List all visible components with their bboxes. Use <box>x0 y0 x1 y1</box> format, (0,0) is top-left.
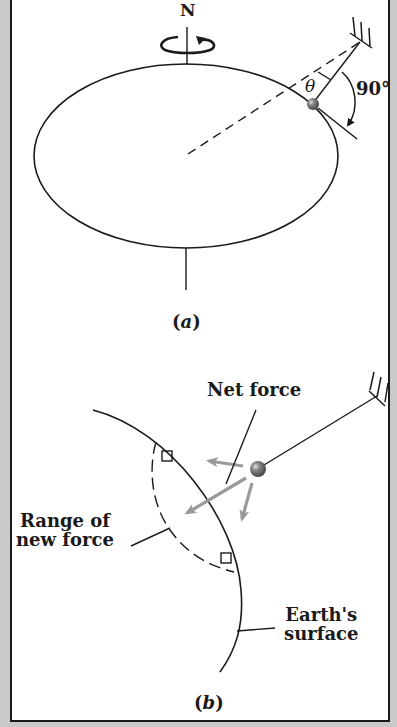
caption-close: ) <box>215 692 224 713</box>
earth-surface-arc <box>93 410 242 672</box>
force-arrow-down <box>242 483 252 519</box>
tangent-line <box>318 108 357 139</box>
north-label: N <box>180 2 196 20</box>
caption-b: (b) <box>194 694 224 713</box>
right-angle-arc <box>342 72 355 125</box>
caption-letter: b <box>203 692 216 713</box>
caption-open: ( <box>172 311 181 332</box>
range-label: Range of new force <box>16 512 114 550</box>
caption-letter: a <box>181 311 193 332</box>
net-force-label: Net force <box>207 381 301 400</box>
pendulum-string-b <box>264 396 377 465</box>
range-leader <box>131 528 170 546</box>
force-arrow-horizontal <box>209 461 243 466</box>
surface-leader <box>237 628 275 631</box>
theta-arc <box>318 72 331 80</box>
surface-label: Earth's surface <box>284 606 359 644</box>
earth-ellipse <box>34 64 338 248</box>
right-angle-label: 90° <box>356 80 390 99</box>
pendulum-support-icon-a <box>350 17 372 48</box>
pendulum-bob-b <box>250 461 266 477</box>
surface-label-line2: surface <box>284 625 359 644</box>
caption-a: (a) <box>172 313 201 332</box>
range-label-line2: new force <box>16 531 114 550</box>
pendulum-bob-a <box>307 98 319 110</box>
pendulum-support-icon-b <box>369 372 388 406</box>
range-limit-square <box>221 553 231 563</box>
panel-a <box>34 17 372 290</box>
theta-label: θ <box>305 78 315 96</box>
caption-open: ( <box>194 692 203 713</box>
caption-close: ) <box>192 311 201 332</box>
